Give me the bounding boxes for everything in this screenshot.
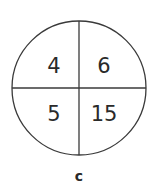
quadrant-circle-diagram: 4 6 5 15 c bbox=[0, 0, 157, 192]
quadrant-bottom-right: 15 bbox=[91, 102, 118, 126]
quadrant-top-right: 6 bbox=[97, 54, 110, 78]
diagram-label: c bbox=[75, 168, 83, 184]
quadrant-top-left: 4 bbox=[47, 54, 60, 78]
quadrant-bottom-left: 5 bbox=[47, 102, 60, 126]
